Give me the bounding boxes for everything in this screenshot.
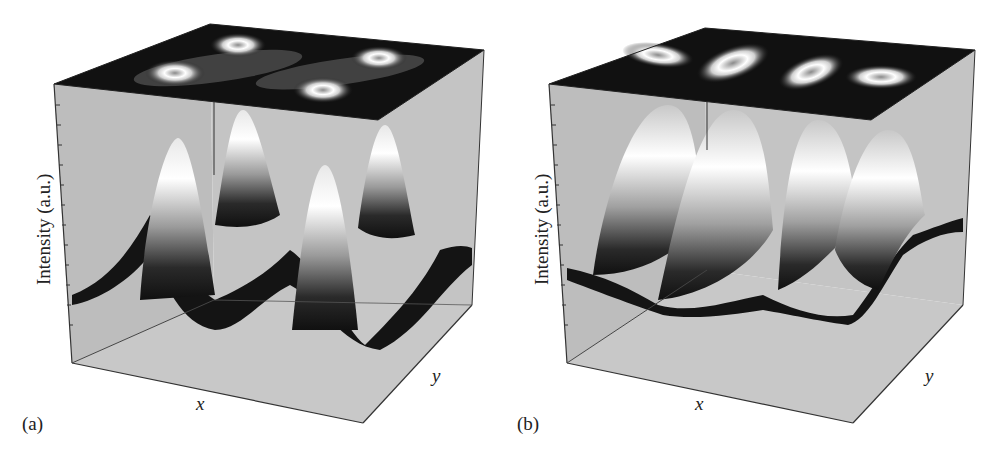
panel-label-b: (b)	[517, 413, 539, 435]
z-axis-label-b: Intensity (a.u.)	[531, 174, 553, 285]
y-axis-label-b: y	[925, 365, 933, 387]
lobe-3	[351, 46, 407, 70]
panel-b: Intensity (a.u.) x y (b)	[493, 0, 990, 458]
lobe-2	[145, 60, 205, 86]
z-axis-label-a: Intensity (a.u.)	[33, 174, 55, 285]
y-axis-label-a: y	[432, 365, 440, 387]
x-axis-label-a: x	[196, 393, 204, 415]
surface-plot-a	[0, 0, 497, 458]
lobe-4	[293, 77, 353, 103]
panel-a: Intensity (a.u.) x y (a)	[0, 0, 497, 458]
panel-label-a: (a)	[22, 413, 43, 435]
x-axis-label-b: x	[695, 393, 703, 415]
surface-plot-b	[493, 0, 990, 458]
lobe-b-4	[845, 65, 917, 89]
lobe-1	[210, 33, 266, 57]
